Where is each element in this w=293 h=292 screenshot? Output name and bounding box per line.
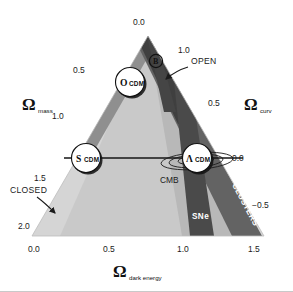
tick-left-0: 0.5 [73, 65, 85, 75]
model-lcdm-sub: CDM [195, 156, 210, 163]
tick-left-1: 1.0 [52, 111, 64, 121]
callout-open-label: OPEN [191, 56, 217, 66]
axis-de-sub: dark energy [129, 274, 163, 281]
figure-canvas: O CDM S CDM Λ CDM B SNe CLUSTERS CMB OPE… [0, 0, 293, 292]
model-scdm-sub: CDM [84, 156, 99, 163]
model-ocdm-symbol: O [120, 77, 127, 88]
model-lcdm-symbol: Λ [186, 153, 193, 164]
tick-left-2: 1.5 [34, 173, 46, 183]
tick-right-2: 0.0 [232, 153, 244, 163]
tick-bottom-1: 0.5 [103, 244, 115, 254]
axis-mass-sub: mass [38, 107, 53, 114]
tick-right-0: 1.0 [178, 45, 190, 55]
axis-curv-symbol: Ω [244, 95, 258, 114]
tick-left-3: 2.0 [18, 221, 30, 231]
tick-bottom-3: 1.5 [248, 244, 260, 254]
callout-closed-label: CLOSED [10, 185, 47, 195]
tick-bottom-0: 0.0 [28, 244, 40, 254]
axis-name-mass: Ω mass [22, 95, 53, 114]
model-bigbang-symbol: B [153, 57, 159, 66]
model-ocdm-sub: CDM [129, 80, 144, 87]
axis-name-dark-energy: Ω dark energy [113, 262, 163, 281]
axis-de-symbol: Ω [113, 262, 127, 281]
cosmic-triangle-figure: O CDM S CDM Λ CDM B SNe CLUSTERS CMB OPE… [0, 0, 293, 292]
axis-mass-symbol: Ω [22, 95, 36, 114]
axis-name-curv: Ω curv [244, 95, 273, 114]
tick-right-3: −0.5 [252, 200, 269, 210]
model-scdm-symbol: S [76, 153, 81, 164]
tick-right-1: 0.5 [208, 98, 220, 108]
band-label-cmb: CMB [160, 175, 179, 185]
tick-bottom-2: 1.0 [177, 244, 189, 254]
axis-curv-sub: curv [260, 107, 273, 114]
tick-apex: 0.0 [133, 17, 145, 27]
band-label-sne: SNe [192, 212, 209, 221]
